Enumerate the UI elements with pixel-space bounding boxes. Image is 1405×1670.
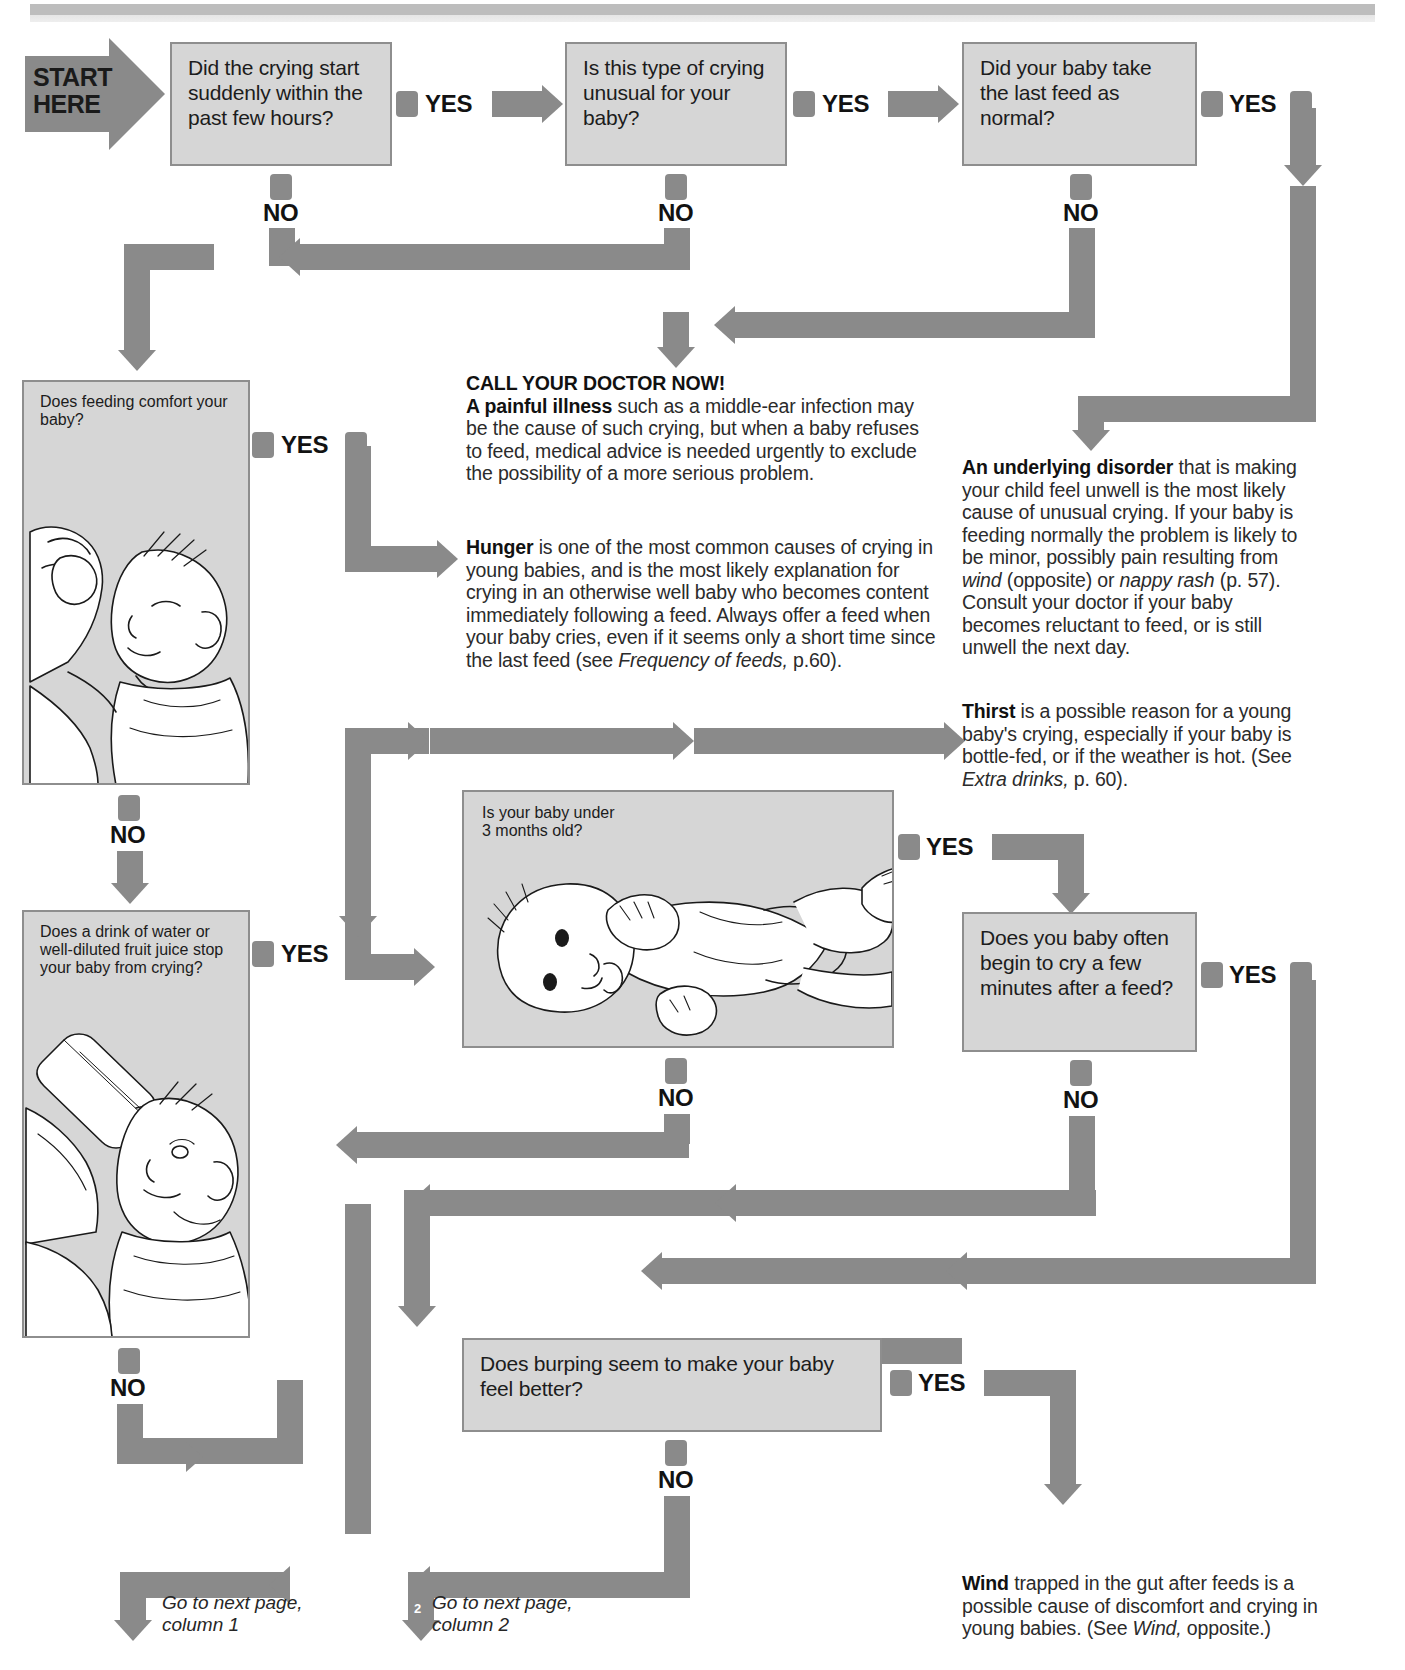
connector-stub	[665, 1440, 687, 1466]
arrow-head-down	[111, 883, 149, 904]
advice-wind: Wind trapped in the gut after feeds is a…	[962, 1572, 1337, 1640]
connector-stub	[1070, 1060, 1092, 1086]
connector-bar	[664, 1496, 690, 1582]
connector-stub	[665, 1058, 687, 1084]
arrow-head-down	[1072, 430, 1110, 451]
goto-line-2: column 2	[432, 1614, 509, 1635]
goto-next-page-column-2: Go to next page, column 2	[432, 1592, 573, 1636]
connector-bar	[1058, 834, 1084, 896]
edge-label-no: NO	[1063, 1086, 1098, 1114]
question-box-cry-after-feed[interactable]: Does you baby often begin to cry a few m…	[962, 912, 1197, 1052]
connector-bar	[662, 1258, 1096, 1284]
goto-line-1: Go to next page,	[162, 1592, 303, 1613]
connector-stub	[1201, 91, 1223, 117]
advice-call-your-doctor: CALL YOUR DOCTOR NOW! A painful illness …	[466, 372, 936, 485]
illustration-breastfeeding-baby	[24, 382, 250, 785]
question-box-water-drink[interactable]: Does a drink of water or well-diluted fr…	[22, 910, 250, 1338]
question-box-under-3-months[interactable]: Is your baby under 3 months old?	[462, 790, 894, 1048]
connector-bar	[345, 1204, 371, 1534]
flowchart-page: START HERE Did the crying start suddenly…	[0, 0, 1405, 1670]
question-text: Did the crying start suddenly within the…	[188, 55, 380, 130]
arrow-head-right	[414, 948, 435, 986]
start-here-arrow: START HERE	[25, 38, 165, 150]
arrow-head-down	[1052, 893, 1090, 914]
connector-bar	[888, 91, 940, 117]
connector-bar	[1080, 1258, 1316, 1284]
connector-bar	[404, 1190, 430, 1310]
connector-bar	[1290, 980, 1316, 1230]
arrow-head-down	[398, 1306, 436, 1327]
arrow-head-down	[118, 350, 156, 371]
question-box-feeding-comfort[interactable]: Does feeding comfort your baby?	[22, 380, 250, 785]
connector-bar	[492, 91, 544, 117]
edge-label-no: NO	[110, 1374, 145, 1402]
connector-bar	[300, 244, 690, 270]
arrow-head-left	[946, 1252, 967, 1290]
arrow-head-down	[657, 347, 695, 368]
edge-label-yes: YES	[1229, 90, 1276, 118]
edge-label-no: NO	[110, 821, 145, 849]
advice-thirst: Thirst is a possible reason for a young …	[962, 700, 1314, 790]
arrow-head-down	[339, 916, 377, 937]
connector-stub	[890, 1370, 912, 1396]
arrow-head-right	[673, 722, 694, 760]
start-line-1: START	[33, 63, 112, 91]
advice-reference-nappy-rash: nappy rash	[1120, 569, 1215, 591]
connector-bar	[1050, 1370, 1076, 1488]
question-text: Is your baby under 3 months old?	[482, 804, 742, 840]
advice-lead: An underlying disorder	[962, 456, 1173, 478]
arrow-head-right	[944, 722, 965, 760]
connector-stub	[252, 941, 274, 967]
advice-body-2: (opposite) or	[1002, 569, 1120, 591]
question-box-last-feed-normal[interactable]: Did your baby take the last feed as norm…	[962, 42, 1197, 166]
arrow-head-right	[437, 540, 458, 578]
advice-underlying-disorder: An underlying disorder that is making yo…	[962, 456, 1314, 659]
connector-stub	[1201, 962, 1223, 988]
edge-label-no: NO	[658, 1084, 693, 1112]
goto-line-2: column 1	[162, 1614, 239, 1635]
connector-bar	[345, 954, 417, 980]
question-text: Is this type of crying unusual for your …	[583, 55, 775, 130]
question-box-burping-helps[interactable]: Does burping seem to make your baby feel…	[462, 1338, 882, 1432]
question-box-crying-unusual[interactable]: Is this type of crying unusual for your …	[565, 42, 787, 166]
question-box-crying-sudden[interactable]: Did the crying start suddenly within the…	[170, 42, 392, 166]
connector-bar	[735, 312, 1095, 338]
connector-stub	[118, 1348, 140, 1374]
arrow-head-left	[715, 1184, 736, 1222]
edge-label-no: NO	[263, 199, 298, 227]
page-marker-2: 2	[414, 1601, 421, 1616]
arrow-head-down	[114, 1620, 152, 1641]
connector-bar	[408, 1572, 434, 1624]
connector-bar	[277, 1380, 303, 1464]
connector-bar	[1069, 228, 1095, 312]
arrow-head-left	[641, 1252, 662, 1290]
advice-lead: Hunger	[466, 536, 533, 558]
connector-bar	[117, 851, 143, 887]
advice-body-2: opposite.)	[1182, 1617, 1271, 1639]
question-text: Does feeding comfort your baby?	[40, 393, 230, 429]
connector-stub	[665, 174, 687, 200]
advice-reference: Wind,	[1133, 1617, 1182, 1639]
edge-label-yes: YES	[918, 1369, 965, 1397]
arrow-head-down	[1284, 165, 1322, 186]
connector-bar	[1290, 1230, 1316, 1262]
connector-stub	[898, 834, 920, 860]
advice-body-2: p. 60).	[1068, 768, 1128, 790]
connector-bar	[124, 244, 214, 270]
connector-stub	[793, 91, 815, 117]
arrow-head-right	[186, 1442, 203, 1472]
edge-label-no: NO	[1063, 199, 1098, 227]
edge-label-yes: YES	[822, 90, 869, 118]
arrow-head-right	[408, 722, 429, 760]
question-text: Did your baby take the last feed as norm…	[980, 55, 1185, 130]
edge-label-yes: YES	[425, 90, 472, 118]
connector-stub	[118, 795, 140, 821]
connector-bar	[1078, 396, 1104, 434]
connector-stub	[252, 432, 274, 458]
connector-bar	[120, 1572, 146, 1624]
arrow-head-left	[279, 238, 300, 276]
advice-reference: Frequency of feeds,	[618, 649, 788, 671]
connector-bar	[1290, 108, 1316, 168]
goto-next-page-column-1: Go to next page, column 1	[162, 1592, 303, 1636]
connector-bar	[345, 446, 371, 546]
